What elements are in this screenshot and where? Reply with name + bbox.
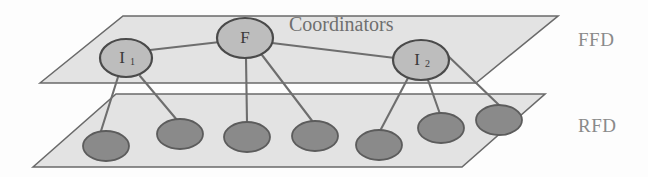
node-f-group[interactable]: F <box>217 18 273 58</box>
node-i2-group[interactable]: I2 <box>393 40 449 80</box>
device-7[interactable] <box>476 105 522 135</box>
node-f-label: F <box>240 28 249 47</box>
node-i2-subscript: 2 <box>425 58 430 69</box>
device-3[interactable] <box>224 122 270 152</box>
coordinators-label: Coordinators <box>289 13 394 35</box>
network-topology-figure: I1FI2 Coordinators FFDRFD <box>0 0 648 177</box>
device-5[interactable] <box>356 130 402 160</box>
edge-f-d3 <box>246 58 247 122</box>
node-i1[interactable] <box>100 39 152 77</box>
node-i1-label: I <box>119 48 125 67</box>
device-2[interactable] <box>157 119 203 149</box>
device-1[interactable] <box>83 131 129 161</box>
ffd-plane-label: FFD <box>578 29 614 50</box>
device-4[interactable] <box>292 121 338 151</box>
device-6[interactable] <box>418 113 464 143</box>
node-i1-subscript: 1 <box>130 56 135 67</box>
annotations-group: Coordinators <box>289 13 394 35</box>
topology-diagram-canvas: I1FI2 Coordinators FFDRFD <box>0 0 648 177</box>
plane-labels-group: FFDRFD <box>578 29 616 136</box>
rfd-plane-label: RFD <box>578 115 616 136</box>
node-i2[interactable] <box>393 40 449 80</box>
node-i1-group[interactable]: I1 <box>100 39 152 77</box>
node-i2-label: I <box>414 50 420 69</box>
